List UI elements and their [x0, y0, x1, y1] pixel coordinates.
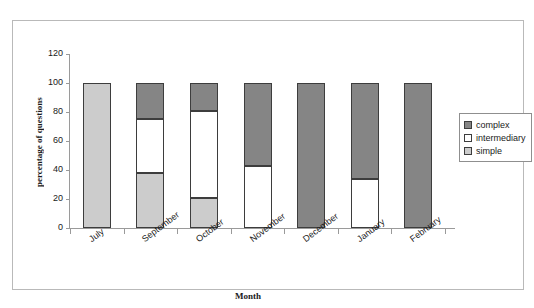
x-tick-mark [284, 229, 285, 234]
stacked-bar[interactable] [136, 54, 164, 228]
stacked-bar[interactable] [190, 54, 218, 228]
bar-segment-intermediary[interactable] [136, 119, 164, 173]
x-tick-mark [445, 229, 446, 234]
y-tick-mark [66, 141, 70, 142]
x-tick-mark [124, 229, 125, 234]
legend-label: intermediary [476, 133, 526, 143]
x-tick-mark [391, 229, 392, 234]
y-tick-mark [66, 199, 70, 200]
legend-item[interactable]: simple [464, 144, 526, 157]
legend-item[interactable]: complex [464, 118, 526, 131]
chart-legend: complexintermediarysimple [459, 113, 532, 162]
bar-segment-complex[interactable] [351, 83, 379, 179]
plot-area: 020406080100120 [70, 54, 445, 228]
stacked-bar[interactable] [244, 54, 272, 228]
bar-segment-complex[interactable] [404, 83, 432, 228]
bar-segment-complex[interactable] [190, 83, 218, 111]
y-tick-mark [66, 112, 70, 113]
x-axis-title: Month [13, 291, 483, 301]
y-tick-label: 120 [48, 48, 63, 58]
y-tick-label: 80 [53, 106, 63, 116]
bar-segment-intermediary[interactable] [190, 111, 218, 198]
x-tick-mark [177, 229, 178, 234]
y-axis-title: percentage of questions [34, 77, 48, 207]
stacked-bar[interactable] [83, 54, 111, 228]
bar-segment-complex[interactable] [297, 83, 325, 228]
legend-swatch-icon [464, 121, 472, 129]
y-tick-mark [66, 54, 70, 55]
stacked-bar[interactable] [297, 54, 325, 228]
y-tick-label: 100 [48, 77, 63, 87]
bar-segment-complex[interactable] [244, 83, 272, 166]
x-tick-mark [70, 229, 71, 234]
bar-segment-simple[interactable] [83, 83, 111, 228]
legend-label: simple [476, 146, 502, 156]
bar-segment-intermediary[interactable] [244, 166, 272, 228]
y-tick-mark [66, 170, 70, 171]
y-tick-label: 20 [53, 193, 63, 203]
stacked-bar[interactable] [404, 54, 432, 228]
legend-item[interactable]: intermediary [464, 131, 526, 144]
x-tick-mark [231, 229, 232, 234]
legend-swatch-icon [464, 134, 472, 142]
y-tick-label: 0 [58, 222, 63, 232]
y-tick-label: 40 [53, 164, 63, 174]
legend-swatch-icon [464, 147, 472, 155]
stacked-bar[interactable] [351, 54, 379, 228]
y-tick-label: 60 [53, 135, 63, 145]
x-tick-mark [338, 229, 339, 234]
x-category-label: July [87, 226, 106, 244]
figure-frame: percentage of questions 020406080100120 … [12, 20, 524, 290]
bar-segment-complex[interactable] [136, 83, 164, 119]
y-tick-mark [66, 83, 70, 84]
legend-label: complex [476, 120, 510, 130]
